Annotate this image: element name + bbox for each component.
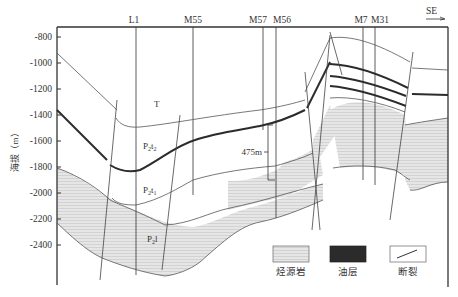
svg-text:-1600: -1600	[30, 136, 52, 146]
well-labels: L1 M55 M57 M56 M7 M31	[129, 15, 390, 25]
direction-indicator: SE	[426, 6, 445, 20]
cross-section-figure: -800 -1000 -1200 -1400 -1600 -1800 -2000…	[0, 0, 458, 297]
solid-swatch-icon	[330, 246, 366, 262]
svg-text:M57: M57	[249, 15, 267, 25]
unit-label-T: T	[154, 99, 160, 109]
legend: 烃源岩 油层 断裂	[273, 246, 426, 277]
svg-text:油层: 油层	[338, 266, 358, 277]
svg-text:烃源岩: 烃源岩	[276, 266, 306, 277]
svg-text:475m: 475m	[241, 147, 262, 157]
svg-text:-1200: -1200	[30, 84, 52, 94]
svg-text:-1000: -1000	[30, 58, 52, 68]
svg-text:-1400: -1400	[30, 110, 52, 120]
svg-text:M56: M56	[273, 15, 291, 25]
svg-text:-2400: -2400	[30, 240, 52, 250]
svg-text:M55: M55	[184, 15, 202, 25]
legend-item-oil-layer: 油层	[330, 246, 366, 277]
svg-text:断裂: 断裂	[398, 266, 418, 277]
svg-text:-2000: -2000	[30, 188, 52, 198]
y-axis-tick-labels: -800 -1000 -1200 -1400 -1600 -1800 -2000…	[30, 32, 52, 250]
legend-item-fault: 断裂	[390, 246, 426, 277]
legend-item-source-rock: 烃源岩	[273, 246, 309, 277]
svg-text:-2200: -2200	[30, 214, 52, 224]
unit-label-P2t1: P2t1	[143, 185, 157, 196]
svg-text:SE: SE	[426, 6, 437, 16]
unit-label-P2t2: P2t2	[143, 141, 157, 152]
svg-text:-1800: -1800	[30, 162, 52, 172]
thickness-annotation: 475m	[241, 125, 275, 180]
hatched-swatch-icon	[273, 246, 309, 262]
arrow-right-icon	[440, 17, 445, 20]
svg-text:L1: L1	[129, 15, 140, 25]
y-axis-label: 海拔（m）	[9, 128, 20, 171]
svg-text:M7: M7	[354, 15, 367, 25]
svg-text:M31: M31	[371, 15, 389, 25]
svg-text:-800: -800	[35, 32, 53, 42]
